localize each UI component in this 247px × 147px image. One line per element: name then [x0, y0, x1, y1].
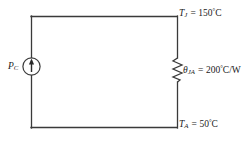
thermal-resistance-equals: =	[198, 65, 203, 75]
source-label-subscript: C	[14, 64, 19, 71]
junction-temperature-subscript: J	[184, 11, 187, 18]
thermal-resistance-subscript: JA	[188, 68, 195, 75]
thermal-resistance-value: 200	[206, 65, 220, 75]
junction-temperature-equals: =	[190, 8, 195, 18]
thermal-circuit-figure: PC TJ=150°C θJA=200°C/W TA=50°C	[0, 0, 247, 147]
thermal-resistance-label: θJA=200°C/W	[183, 65, 241, 76]
thermal-resistance-unit: C/W	[223, 65, 241, 75]
ambient-temperature-subscript: A	[184, 122, 188, 129]
junction-temperature-unit: C	[215, 8, 221, 18]
ambient-temperature-unit: C	[212, 119, 218, 129]
ambient-temperature-equals: =	[192, 119, 197, 129]
junction-temperature-label: TJ=150°C	[179, 8, 222, 19]
junction-temperature-value: 150	[198, 8, 212, 18]
ambient-temperature-value: 50	[199, 119, 209, 129]
resistor-zigzag	[173, 58, 182, 82]
ambient-temperature-label: TA=50°C	[179, 119, 218, 130]
source-label: PC	[8, 62, 18, 72]
